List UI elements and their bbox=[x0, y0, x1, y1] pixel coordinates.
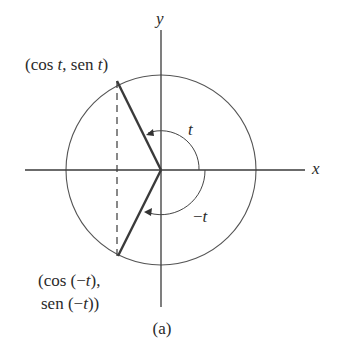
angle-t-arrowhead-icon bbox=[146, 129, 154, 136]
y-axis-label: y bbox=[154, 9, 164, 28]
figure-caption: (a) bbox=[153, 319, 172, 338]
point-lower-label-line2: sen (−t)) bbox=[41, 294, 99, 313]
angle-minus-t-label: −t bbox=[193, 207, 209, 226]
radius-t bbox=[117, 81, 161, 170]
angle-t-label: t bbox=[188, 120, 194, 139]
point-lower-label-line1: (cos (−t), bbox=[38, 271, 100, 290]
angle-minus-t-arrowhead-icon bbox=[144, 208, 152, 216]
radius-minus-t bbox=[118, 170, 161, 256]
unit-circle-diagram: x y t −t (cos t, sen t) (cos (−t), sen (… bbox=[0, 0, 341, 357]
point-upper-label: (cos t, sen t) bbox=[25, 55, 108, 74]
x-axis-label: x bbox=[311, 159, 320, 178]
